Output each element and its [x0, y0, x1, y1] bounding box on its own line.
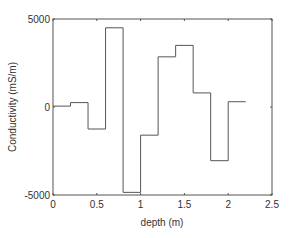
y-tick-label: 5000 [28, 14, 51, 25]
x-axis-ticks: 00.511.522.5 [50, 19, 279, 210]
y-axis-ticks: -500005000 [24, 14, 272, 201]
conductivity-step-line [53, 28, 246, 193]
y-tick-label: 0 [44, 102, 50, 113]
x-axis-label: depth (m) [141, 217, 184, 228]
x-tick-label: 0.5 [90, 199, 104, 210]
axes-frame [53, 19, 272, 195]
plot-area: 00.511.522.5 -500005000 [24, 14, 279, 210]
y-axis-label: Conductivity (mS/m) [7, 62, 18, 152]
x-tick-label: 1.5 [177, 199, 191, 210]
step-chart: 00.511.522.5 -500005000 depth (m) Conduc… [0, 0, 294, 238]
x-tick-label: 0 [50, 199, 56, 210]
y-tick-label: -5000 [24, 190, 50, 201]
x-tick-label: 1 [138, 199, 144, 210]
x-tick-label: 2.5 [265, 199, 279, 210]
x-tick-label: 2 [225, 199, 231, 210]
